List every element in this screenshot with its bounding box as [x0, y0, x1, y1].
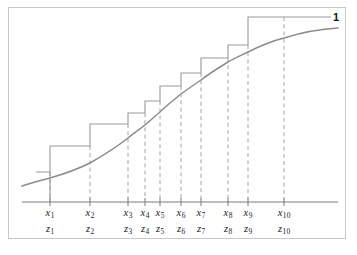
z-axis-label-9: z9: [244, 223, 252, 234]
z-axis-label-4: z4: [141, 223, 149, 234]
figure-container: 1 x1 x2 x3 x4 x5 x6 x7 x8 x9 x10 z1 z2 z…: [0, 0, 357, 255]
x-axis-label-8: x8: [224, 207, 233, 218]
x-axis-label-7: x7: [197, 207, 206, 218]
x-axis-label-9: x9: [244, 207, 253, 218]
z-axis-label-10: z10: [278, 223, 290, 234]
dashed-drop-line-group: [50, 17, 284, 200]
z-axis-label-5: z5: [156, 223, 164, 234]
z-axis-label-2: z2: [86, 223, 94, 234]
z-axis-label-8: z8: [224, 223, 232, 234]
x-axis-label-1: x1: [46, 207, 55, 218]
empirical-step-function: [36, 17, 331, 172]
max-level-label: 1: [333, 11, 339, 23]
x-axis-label-3: x3: [124, 207, 133, 218]
x-axis-label-4: x4: [141, 207, 150, 218]
x-axis-label-10: x10: [278, 207, 291, 218]
z-axis-label-3: z3: [124, 223, 132, 234]
z-axis-label-7: z7: [197, 223, 205, 234]
x-axis-label-5: x5: [156, 207, 165, 218]
x-axis-label-2: x2: [86, 207, 95, 218]
x-axis-label-6: x6: [177, 207, 186, 218]
z-axis-label-1: z1: [46, 223, 54, 234]
z-axis-label-6: z6: [177, 223, 185, 234]
theoretical-cdf-curve: [22, 28, 338, 186]
